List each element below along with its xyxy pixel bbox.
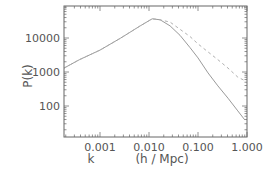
x-tick-label: 1.000 <box>231 141 263 154</box>
x-axis-label: k <box>88 152 95 166</box>
y-tick-label: 10000 <box>25 32 60 45</box>
y-tick-label: 1000 <box>32 66 60 79</box>
y-axis-label: P(k) <box>21 64 35 88</box>
y-tick-label: 100 <box>39 100 60 113</box>
x-axis-units: (h / Mpc) <box>135 152 188 166</box>
power-spectrum-chart: 0.0010.0100.1001.000100100010000 P(k) k … <box>0 0 271 177</box>
